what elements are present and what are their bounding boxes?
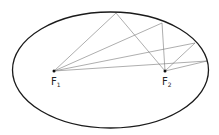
- ellipse-foci-diagram: F1 F2: [0, 0, 219, 135]
- ray-f1-p1: [54, 13, 116, 71]
- focus-f2-label: F2: [162, 76, 172, 88]
- ray-p1-f2: [116, 13, 165, 71]
- focus-f2-dot: [164, 70, 167, 73]
- ray-f1-p2: [54, 23, 162, 71]
- ray-f1-p3: [54, 43, 195, 71]
- focus-f1-label: F1: [51, 76, 61, 88]
- rays: [54, 13, 207, 71]
- ray-p3-f2: [165, 43, 195, 71]
- ellipse: [13, 12, 209, 128]
- ray-f1-p4: [54, 61, 207, 71]
- focus-f1-dot: [53, 70, 56, 73]
